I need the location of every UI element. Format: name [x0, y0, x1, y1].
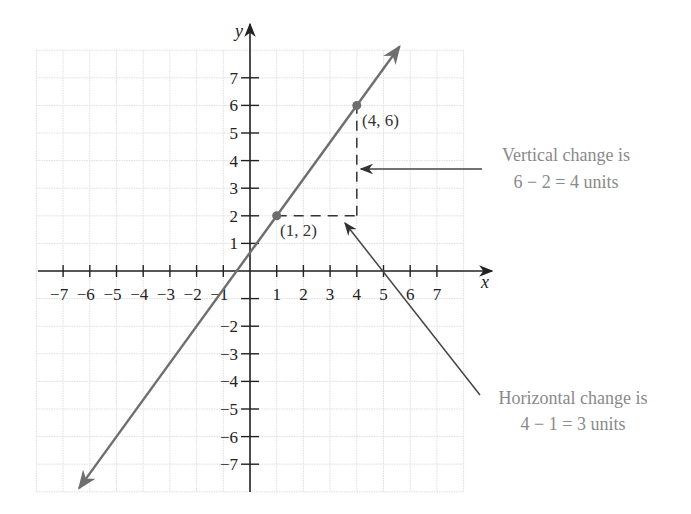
- y-axis-label: y: [233, 21, 243, 41]
- x-tick-label: −2: [184, 285, 202, 304]
- y-tick-label: −7: [220, 455, 239, 474]
- horizontal-change-note-line2: 4 − 1 = 3 units: [521, 414, 626, 434]
- annotation-pointers: [345, 169, 482, 395]
- data-point: [352, 101, 361, 110]
- x-tick-label: 1: [272, 285, 281, 304]
- y-tick-label: 1: [230, 234, 239, 253]
- horizontal-change-pointer: [345, 223, 480, 395]
- slope-diagram: −7−6−5−4−3−2−112345677654321−2−3−4−5−6−7…: [0, 0, 691, 514]
- x-tick-label: 3: [326, 285, 335, 304]
- y-tick-label: −2: [220, 317, 238, 336]
- x-tick-label: 4: [353, 285, 362, 304]
- y-tick-label: −3: [220, 345, 238, 364]
- x-tick-label: −7: [50, 285, 69, 304]
- y-tick-label: 3: [230, 179, 239, 198]
- y-tick-label: 5: [230, 124, 239, 143]
- x-tick-label: −5: [103, 285, 121, 304]
- y-tick-label: −6: [220, 428, 238, 447]
- x-tick-label: −4: [130, 285, 149, 304]
- point-label-4-6: (4, 6): [362, 111, 399, 130]
- x-tick-label: 2: [299, 285, 308, 304]
- y-tick-label: −4: [220, 372, 239, 391]
- y-tick-label: 7: [230, 69, 239, 88]
- x-tick-label: 7: [433, 285, 442, 304]
- y-tick-label: −5: [220, 400, 238, 419]
- y-tick-label: 6: [230, 96, 239, 115]
- y-tick-label: 2: [230, 207, 239, 226]
- axes: [38, 24, 492, 492]
- x-tick-label: 5: [379, 285, 388, 304]
- x-tick-label: −3: [157, 285, 175, 304]
- vertical-change-note-line1: Vertical change is: [502, 145, 630, 165]
- x-axis-label: x: [480, 272, 489, 292]
- data-point: [272, 211, 281, 220]
- point-label-1-2: (1, 2): [280, 221, 317, 240]
- line-graph: [79, 47, 399, 489]
- line-y-equals-4-3x-plus-2-3: [79, 47, 399, 489]
- vertical-change-note-line2: 6 − 2 = 4 units: [514, 172, 619, 192]
- x-tick-label: −6: [77, 285, 95, 304]
- y-tick-label: 4: [230, 152, 239, 171]
- horizontal-change-note-line1: Horizontal change is: [499, 388, 648, 408]
